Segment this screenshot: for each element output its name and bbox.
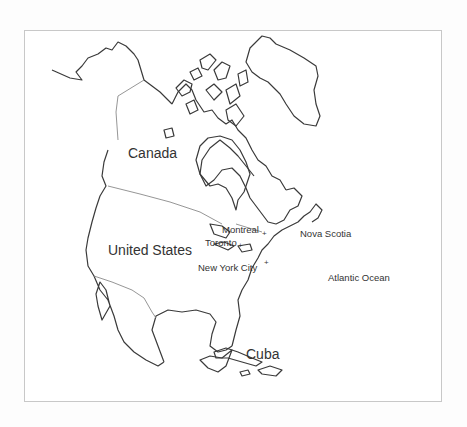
- label-nova-scotia: Nova Scotia: [300, 228, 351, 239]
- alaska-border: [116, 80, 144, 140]
- toronto-marker: +: [238, 241, 243, 250]
- label-canada: Canada: [128, 145, 177, 161]
- mainland-coastline: [52, 42, 286, 372]
- newyork-marker: +: [264, 258, 269, 267]
- label-montreal: Montreal: [222, 224, 259, 235]
- label-cuba: Cuba: [246, 346, 279, 362]
- hudson-bay: [196, 136, 250, 210]
- montreal-marker: +: [262, 229, 267, 238]
- label-new-york: New York City: [198, 262, 257, 273]
- us-mexico-border: [94, 276, 156, 318]
- north-america-map: + + +: [0, 0, 467, 427]
- label-atlantic-ocean: Atlantic Ocean: [328, 272, 390, 283]
- greenland: [246, 36, 320, 126]
- label-united-states: United States: [108, 242, 192, 258]
- label-toronto: Toronto: [205, 237, 237, 248]
